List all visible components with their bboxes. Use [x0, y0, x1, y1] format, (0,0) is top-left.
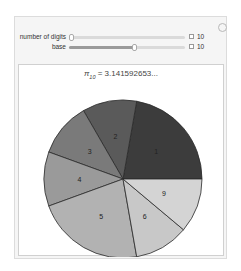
- slider-row-base: base 10: [15, 42, 228, 52]
- slice-label: 5: [99, 213, 103, 220]
- expand-controls-icon[interactable]: [189, 44, 194, 49]
- slice-label: 1: [154, 148, 158, 155]
- base-value: 10: [197, 42, 204, 52]
- slider-label-base: base: [52, 42, 66, 52]
- slice-label: 9: [162, 190, 166, 197]
- slice-label: 2: [114, 133, 118, 140]
- slice-label: 6: [143, 213, 147, 220]
- expand-controls-icon[interactable]: [189, 34, 194, 39]
- slider-fill: [69, 46, 134, 49]
- gear-icon[interactable]: [218, 23, 227, 32]
- output-pane: π10 = 3.141592653... 1234569: [18, 64, 224, 256]
- number-of-digits-value: 10: [197, 32, 204, 42]
- number-of-digits-slider[interactable]: [69, 36, 185, 39]
- slice-label: 4: [78, 176, 82, 183]
- manipulate-panel: number of digits 10 base 10 π10 = 3.1415…: [14, 16, 227, 259]
- pie-chart: 1234569: [19, 65, 225, 257]
- base-slider[interactable]: [69, 46, 185, 49]
- slider-thumb[interactable]: [69, 34, 74, 41]
- slider-row-number-of-digits: number of digits 10: [15, 32, 228, 42]
- slider-label-number-of-digits: number of digits: [20, 32, 66, 42]
- slider-thumb[interactable]: [132, 44, 137, 51]
- slice-label: 3: [88, 148, 92, 155]
